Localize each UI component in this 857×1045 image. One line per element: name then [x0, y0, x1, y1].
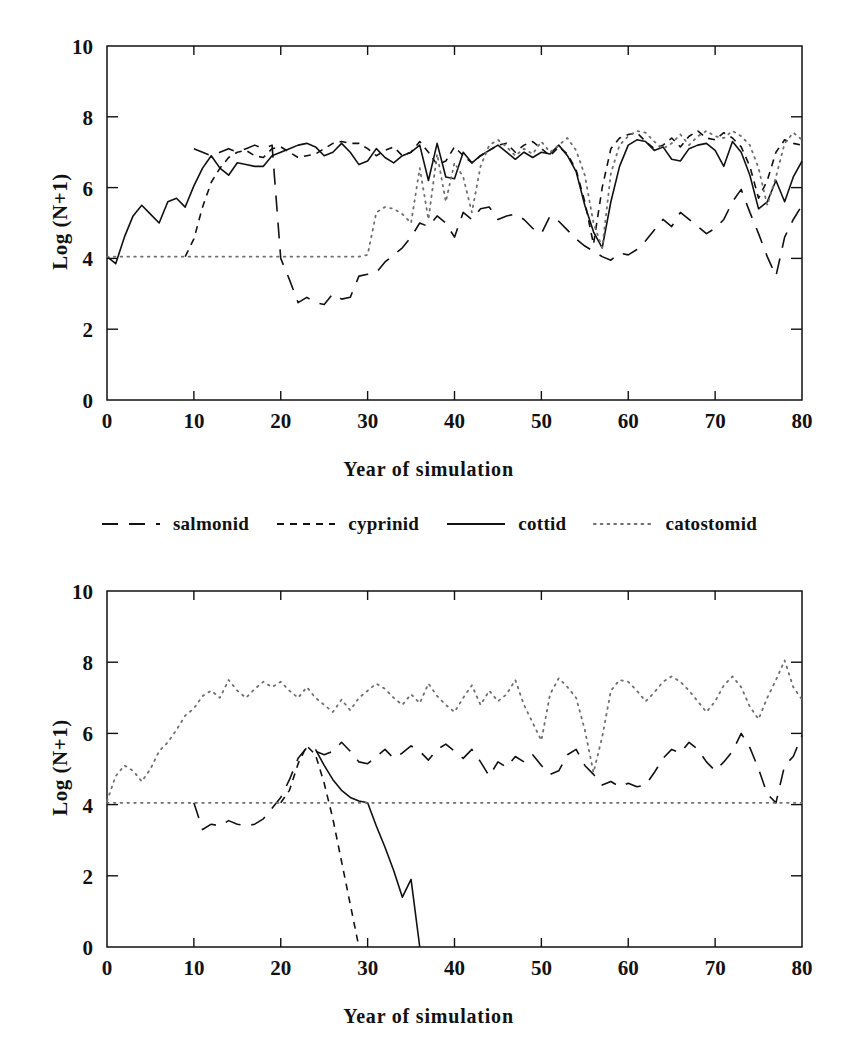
y-tick-label: 6: [83, 177, 94, 201]
y-tick-label: 8: [83, 106, 94, 130]
series-line-salmonid: [194, 145, 802, 304]
legend-label: cyprinid: [348, 513, 419, 535]
x-tick-label: 70: [705, 409, 726, 433]
series-line-cyprinid: [281, 746, 359, 947]
y-tick-label: 2: [83, 318, 94, 342]
y-tick-label: 0: [83, 389, 94, 413]
legend-item-catostomid: catostomid: [592, 513, 757, 535]
legend-item-salmonid: salmonid: [100, 513, 249, 535]
x-tick-label: 80: [792, 409, 813, 433]
y-tick-label: 4: [83, 247, 94, 271]
legend-label: salmonid: [173, 513, 249, 535]
x-tick-label: 10: [183, 956, 204, 980]
x-tick-label: 40: [444, 956, 465, 980]
series-line-salmonid: [194, 733, 802, 829]
legend-swatch-short-dash-icon: [275, 517, 337, 531]
y-tick-label: 4: [83, 794, 94, 818]
bottom-panel-x-axis-label: Year of simulation: [0, 1005, 857, 1028]
x-tick-label: 40: [444, 409, 465, 433]
x-tick-label: 60: [618, 409, 639, 433]
chart-panel-bottom: 010203040506070800246810 Log (N+1) Year …: [0, 553, 857, 1045]
x-tick-label: 0: [102, 956, 113, 980]
legend-row: salmonidcyprinidcottidcatostomid: [0, 505, 857, 553]
legend-swatch-dotted-icon: [592, 517, 654, 531]
x-tick-label: 80: [792, 956, 813, 980]
series-legend: salmonidcyprinidcottidcatostomid: [0, 513, 857, 535]
x-tick-label: 30: [357, 956, 378, 980]
bottom-panel-y-axis-label: Log (N+1): [48, 708, 73, 828]
y-tick-label: 10: [72, 35, 93, 59]
plot-frame: [107, 591, 802, 947]
figure-root: 010203040506070800246810 Log (N+1) Year …: [0, 0, 857, 1045]
x-tick-label: 60: [618, 956, 639, 980]
series-line-cottid: [316, 749, 420, 947]
legend-label: cottid: [518, 513, 566, 535]
y-tick-label: 8: [83, 651, 94, 675]
legend-swatch-solid-icon: [445, 517, 507, 531]
legend-label: catostomid: [665, 513, 757, 535]
plot-frame: [107, 46, 802, 400]
legend-item-cottid: cottid: [445, 513, 566, 535]
series-line-cyprinid: [185, 131, 802, 257]
y-tick-label: 6: [83, 722, 94, 746]
series-line-cottid: [107, 140, 802, 264]
bottom-panel-plot: 010203040506070800246810: [0, 553, 857, 1045]
x-tick-label: 0: [102, 409, 113, 433]
x-tick-label: 50: [531, 956, 552, 980]
top-panel-x-axis-label: Year of simulation: [0, 458, 857, 481]
y-tick-label: 2: [83, 865, 94, 889]
series-line-catostomid: [107, 660, 802, 801]
x-tick-label: 20: [270, 409, 291, 433]
x-tick-label: 50: [531, 409, 552, 433]
x-tick-label: 30: [357, 409, 378, 433]
y-tick-label: 0: [83, 936, 94, 960]
top-panel-y-axis-label: Log (N+1): [48, 162, 73, 282]
top-panel-plot: 010203040506070800246810: [0, 0, 857, 500]
x-tick-label: 20: [270, 956, 291, 980]
legend-swatch-long-dash-icon: [100, 517, 162, 531]
y-tick-label: 10: [72, 580, 93, 604]
x-tick-label: 10: [183, 409, 204, 433]
legend-item-cyprinid: cyprinid: [275, 513, 419, 535]
x-tick-label: 70: [705, 956, 726, 980]
chart-panel-top: 010203040506070800246810 Log (N+1) Year …: [0, 0, 857, 500]
